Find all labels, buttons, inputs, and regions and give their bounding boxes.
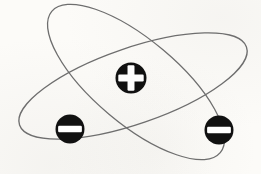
atom-svg (0, 0, 261, 174)
electron-right (205, 116, 234, 145)
minus-icon (207, 127, 231, 134)
minus-icon (58, 126, 82, 133)
atom-diagram (0, 0, 261, 174)
electron-left (56, 115, 85, 144)
nucleus (116, 63, 147, 94)
plus-icon-vertical-bar (128, 65, 135, 90)
